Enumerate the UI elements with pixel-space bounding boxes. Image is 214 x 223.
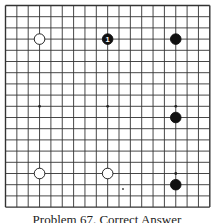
go-board[interactable]: 1 (0, 0, 214, 212)
problem-caption: Problem 67. Correct Answer (0, 212, 214, 223)
star-point (174, 172, 177, 175)
black-stone[interactable] (170, 112, 181, 123)
black-stone[interactable] (170, 34, 181, 45)
star-point (38, 105, 41, 108)
white-stone[interactable] (34, 34, 45, 45)
white-stone[interactable] (102, 168, 113, 179)
white-stone[interactable] (34, 168, 45, 179)
star-point (174, 105, 177, 108)
black-stone[interactable] (170, 179, 181, 190)
dot-mark (122, 188, 124, 190)
stone-label: 1 (106, 35, 110, 44)
star-point (106, 105, 109, 108)
